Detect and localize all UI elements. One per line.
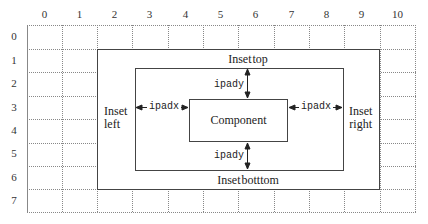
arrow-head-down-icon — [245, 92, 250, 98]
ipadx-right-label: ipadx — [299, 101, 333, 112]
arrow-head-right-icon — [336, 105, 342, 110]
ipadx-left-label: ipadx — [147, 101, 181, 112]
arrow-head-up-icon — [245, 143, 250, 149]
arrow-head-right-icon — [182, 105, 188, 110]
ipady-top-label: ipady — [214, 79, 244, 90]
arrow-head-left-icon — [289, 105, 295, 110]
arrow-head-up-icon — [245, 69, 250, 75]
ipady-bottom-label: ipady — [214, 150, 244, 161]
padding-arrows — [0, 0, 428, 224]
arrow-head-left-icon — [136, 105, 142, 110]
arrow-head-down-icon — [245, 163, 250, 169]
